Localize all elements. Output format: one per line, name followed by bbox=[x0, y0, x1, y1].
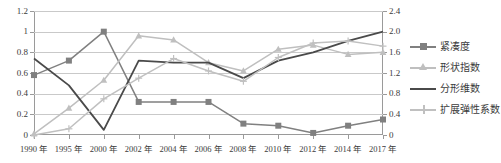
y-axis-left-tick-label: 0.6 bbox=[17, 69, 28, 78]
data-point-marker bbox=[380, 43, 387, 50]
y-axis-right-tick-label: 1.2 bbox=[389, 69, 400, 78]
data-point-marker bbox=[135, 32, 142, 38]
legend-marker-icon bbox=[410, 83, 436, 95]
data-point-marker bbox=[101, 29, 107, 35]
data-point-marker bbox=[380, 117, 386, 123]
x-axis-tick-label: 2004 年 bbox=[160, 144, 188, 155]
x-axis-tick-label: 2000 年 bbox=[90, 144, 118, 155]
data-point-marker bbox=[66, 58, 72, 64]
legend-item[interactable]: 形状指数 bbox=[410, 57, 501, 78]
legend-item-label: 分形维数 bbox=[436, 83, 480, 95]
tick-mark-bottom bbox=[139, 135, 140, 139]
data-point-marker bbox=[171, 99, 177, 105]
series-lines bbox=[34, 11, 383, 135]
data-point-marker bbox=[31, 72, 37, 78]
tick-mark-bottom bbox=[348, 135, 349, 139]
y-axis-left-tick-label: 1.2 bbox=[17, 7, 28, 16]
data-point-marker bbox=[205, 67, 212, 74]
data-point-marker bbox=[136, 99, 142, 105]
tick-mark-right bbox=[383, 11, 387, 12]
tick-mark-bottom bbox=[209, 135, 210, 139]
y-axis-right-tick-label: 0.4 bbox=[389, 110, 400, 119]
data-point-marker bbox=[206, 99, 212, 105]
series-line bbox=[34, 41, 383, 135]
y-axis-left: 00.20.40.60.811.2 bbox=[0, 11, 28, 135]
plot-area bbox=[34, 11, 383, 135]
tick-mark-right bbox=[383, 114, 387, 115]
y-axis-left-tick-label: 0 bbox=[24, 131, 29, 140]
legend-marker-icon bbox=[410, 62, 436, 74]
x-axis-labels: 1990 年1995 年2000 年2002 年2004 年2006 年2008… bbox=[0, 144, 420, 158]
legend-marker-icon bbox=[410, 41, 436, 53]
data-point-marker bbox=[170, 55, 177, 62]
y-axis-left-tick-label: 0.8 bbox=[17, 48, 28, 57]
y-axis-right-tick-label: 2.0 bbox=[389, 27, 400, 36]
x-axis-tick-label: 2010 年 bbox=[264, 144, 292, 155]
data-point-marker bbox=[310, 130, 316, 136]
legend-item[interactable]: 紧凑度 bbox=[410, 36, 501, 57]
x-axis-tick-label: 1995 年 bbox=[55, 144, 83, 155]
tick-mark-bottom bbox=[243, 135, 244, 139]
x-axis-tick-label: 2017 年 bbox=[369, 144, 397, 155]
tick-mark-right bbox=[383, 32, 387, 33]
y-axis-left-tick-label: 1 bbox=[24, 27, 29, 36]
legend-item-label: 形状指数 bbox=[436, 62, 480, 74]
data-point-marker bbox=[345, 37, 352, 44]
data-point-marker bbox=[275, 123, 281, 129]
y-axis-left-tick-label: 0.2 bbox=[17, 110, 28, 119]
data-point-marker bbox=[240, 121, 246, 127]
legend-item[interactable]: 分形维数 bbox=[410, 78, 501, 99]
tick-mark-right bbox=[383, 94, 387, 95]
tick-mark-bottom bbox=[174, 135, 175, 139]
tick-mark-bottom bbox=[69, 135, 70, 139]
x-axis-tick-label: 2008 年 bbox=[229, 144, 257, 155]
x-axis-tick-label: 2012 年 bbox=[299, 144, 327, 155]
legend-item[interactable]: 扩展弹性系数 bbox=[410, 99, 501, 120]
x-axis-tick-label: 2006 年 bbox=[194, 144, 222, 155]
legend-item-label: 扩展弹性系数 bbox=[436, 104, 500, 116]
y-axis-right-tick-label: 0.8 bbox=[389, 89, 400, 98]
y-axis-right-tick-label: 1.6 bbox=[389, 48, 400, 57]
y-axis-right-tick-label: 2.4 bbox=[389, 7, 400, 16]
tick-mark-bottom bbox=[383, 135, 384, 139]
tick-mark-right bbox=[383, 73, 387, 74]
y-axis-right-tick-label: 0 bbox=[389, 131, 394, 140]
chart-container: 00.20.40.60.811.2 00.40.81.21.62.02.4 19… bbox=[0, 0, 501, 163]
x-axis-tick-label: 2014 年 bbox=[334, 144, 362, 155]
data-point-marker bbox=[135, 75, 142, 82]
x-axis-tick-label: 1990 年 bbox=[20, 144, 48, 155]
tick-mark-bottom bbox=[278, 135, 279, 139]
y-axis-left-tick-label: 0.4 bbox=[17, 89, 28, 98]
legend-marker-icon bbox=[410, 104, 436, 116]
x-axis-tick-label: 2002 年 bbox=[125, 144, 153, 155]
series-line bbox=[34, 36, 383, 134]
tick-mark-bottom bbox=[104, 135, 105, 139]
legend-item-label: 紧凑度 bbox=[436, 41, 470, 53]
data-point-marker bbox=[345, 123, 351, 129]
chart-legend: 紧凑度形状指数分形维数扩展弹性系数 bbox=[410, 36, 501, 120]
